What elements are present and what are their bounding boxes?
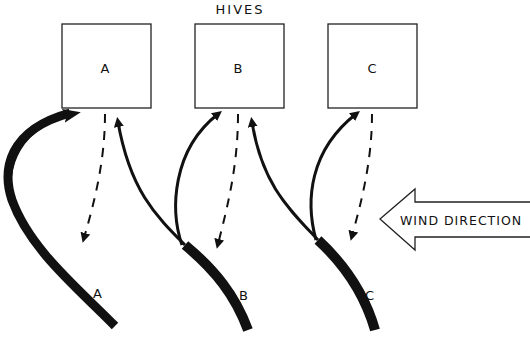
outgoing-arrow-c <box>352 114 372 236</box>
flight-path-b-to-hive-a <box>118 122 185 245</box>
hive-c-label: C <box>367 61 376 76</box>
wind-direction-arrow: WIND DIRECTION <box>380 189 530 250</box>
flight-path-c-trunk <box>318 240 375 330</box>
flight-path-b-label: B <box>239 288 248 303</box>
hive-c: C <box>328 24 417 108</box>
hive-a: A <box>62 24 151 108</box>
flight-path-c-to-hive-c <box>311 114 356 240</box>
hive-b-label: B <box>234 61 243 76</box>
hive-a-label: A <box>101 61 110 76</box>
outgoing-arrow-b <box>218 114 238 244</box>
wind-direction-label: WIND DIRECTION <box>400 213 522 228</box>
hives-title: HIVES <box>216 2 265 17</box>
outgoing-arrow-a <box>84 114 105 238</box>
flight-path-a-label: A <box>93 286 102 301</box>
flight-path-c-label: C <box>365 288 374 303</box>
hive-drift-diagram: HIVES A B C A B C WIND DIRECTION <box>0 0 530 348</box>
hive-b: B <box>195 24 284 108</box>
flight-path-b-to-hive-b <box>176 114 218 245</box>
flight-path-c-to-hive-b <box>252 122 318 240</box>
